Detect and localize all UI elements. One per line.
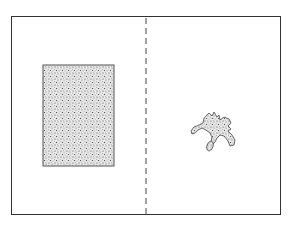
stippled-rectangle [43, 65, 114, 166]
diagram-canvas [0, 0, 295, 230]
irregular-blob [191, 112, 235, 152]
